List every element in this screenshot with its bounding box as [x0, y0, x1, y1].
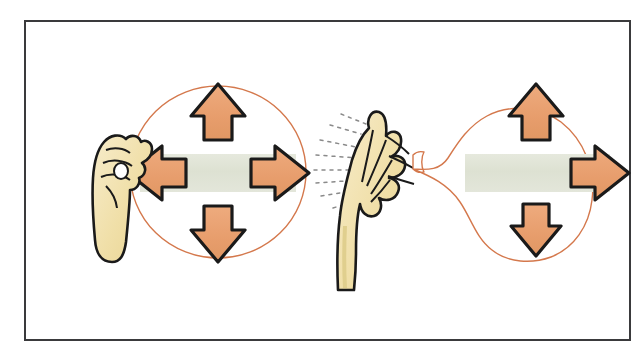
panel-closed-balloon [93, 84, 309, 262]
figure-illustration [0, 0, 643, 358]
hand-releasing-neck [337, 112, 415, 290]
pinch-grip [114, 163, 128, 179]
panel-released-balloon [413, 84, 629, 261]
wrist-shading [344, 226, 345, 288]
figure-root: Left: inflated balloon held closed, forc… [0, 0, 643, 358]
panel-release-hand [314, 112, 415, 290]
